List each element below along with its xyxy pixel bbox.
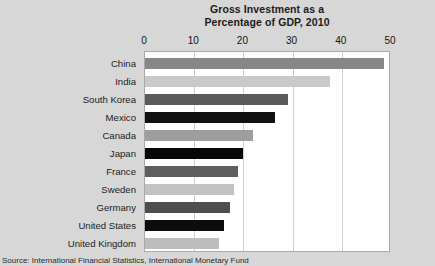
bar [145, 130, 253, 141]
chart-title-line-1: Gross Investment as a [144, 3, 390, 16]
bar [145, 76, 330, 87]
y-tick-label: China [111, 58, 136, 69]
y-tick-label: United States [78, 220, 136, 231]
bar [145, 58, 384, 69]
x-tick-label: 20 [237, 35, 248, 46]
chart-title: Gross Investment as a Percentage of GDP,… [144, 3, 390, 29]
x-tick-label: 10 [188, 35, 199, 46]
source-note: Source: International Financial Statisti… [2, 256, 432, 265]
y-axis-category-labels: ChinaIndiaSouth KoreaMexicoCanadaJapanFr… [0, 51, 140, 252]
x-tick-label: 40 [335, 35, 346, 46]
y-tick-label: United Kingdom [68, 238, 136, 249]
y-tick-label: South Korea [83, 94, 136, 105]
y-tick-label: France [106, 166, 136, 177]
bar [145, 148, 243, 159]
bar [145, 202, 230, 213]
y-tick-label: India [115, 76, 136, 87]
bar [145, 112, 275, 123]
bar [145, 184, 234, 195]
chart-figure: Gross Investment as a Percentage of GDP,… [0, 0, 435, 266]
y-tick-label: Germany [97, 202, 136, 213]
bar-series [145, 52, 389, 251]
bar [145, 238, 219, 249]
y-tick-label: Japan [110, 148, 136, 159]
x-tick-label: 0 [141, 35, 147, 46]
y-tick-label: Canada [102, 130, 136, 141]
y-tick-label: Mexico [106, 112, 136, 123]
x-axis-tick-labels: 01020304050 [144, 35, 390, 49]
x-tick-label: 30 [286, 35, 297, 46]
bar [145, 220, 224, 231]
y-tick-label: Sweden [101, 184, 136, 195]
x-tick-label: 50 [384, 35, 395, 46]
bar [145, 94, 288, 105]
chart-title-line-2: Percentage of GDP, 2010 [144, 16, 390, 29]
bar [145, 166, 238, 177]
plot-area [144, 51, 390, 252]
